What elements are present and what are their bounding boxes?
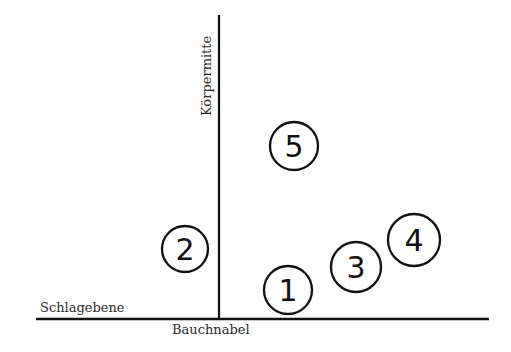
marker-2-label: 2 (175, 232, 194, 267)
marker-3-label: 3 (346, 250, 365, 285)
diagram: 1 2 3 4 5 Körpermitte Schlagebene Bauchn… (0, 0, 511, 352)
marker-4-label: 4 (404, 223, 423, 258)
origin-label: Bauchnabel (172, 322, 250, 337)
marker-5: 5 (270, 122, 318, 170)
marker-3: 3 (331, 242, 381, 292)
marker-4: 4 (388, 214, 440, 266)
marker-2: 2 (162, 226, 208, 272)
marker-5-label: 5 (284, 129, 303, 164)
vertical-axis-label: Körpermitte (199, 36, 214, 116)
marker-1: 1 (264, 266, 312, 314)
horizontal-axis-label: Schlagebene (40, 300, 125, 315)
marker-1-label: 1 (278, 273, 297, 308)
